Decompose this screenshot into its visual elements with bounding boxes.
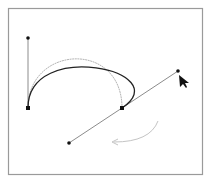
start-anchor-point[interactable] xyxy=(26,106,30,110)
end-handle-in-point[interactable] xyxy=(67,141,71,145)
end-anchor-point[interactable] xyxy=(120,106,124,110)
start-handle-point[interactable] xyxy=(26,36,30,40)
diagram-frame xyxy=(9,9,203,175)
end-handle-out-point[interactable] xyxy=(176,69,180,73)
bezier-diagram xyxy=(0,0,211,181)
